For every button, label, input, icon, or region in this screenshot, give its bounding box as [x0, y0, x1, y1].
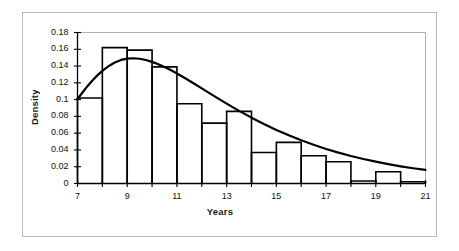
histogram-bars [78, 48, 426, 184]
histogram-chart: 0.180.160.140.120.10.080.060.040.020 791… [0, 0, 459, 251]
histogram-bar [252, 152, 277, 183]
histogram-bar [376, 172, 401, 184]
x-tick-label: 19 [364, 191, 388, 201]
histogram-bar [127, 50, 152, 183]
y-tick-label: 0.14 [35, 60, 69, 70]
x-tick-label: 21 [414, 191, 438, 201]
x-tick-label: 9 [115, 191, 139, 201]
y-tick-label: 0.04 [35, 144, 69, 154]
histogram-bar [177, 104, 202, 184]
histogram-bar [227, 111, 252, 183]
x-tick-label: 13 [215, 191, 239, 201]
y-axis-label: Density [27, 72, 43, 142]
histogram-bar [78, 98, 103, 184]
x-tick-label: 17 [314, 191, 338, 201]
x-tick-label: 7 [66, 191, 90, 201]
y-tick-label: 0 [35, 178, 69, 188]
histogram-bar [276, 142, 301, 183]
histogram-bar [152, 67, 177, 184]
x-axis-label: Years [130, 206, 310, 217]
histogram-bar [202, 123, 227, 183]
y-tick-label: 0.16 [35, 43, 69, 53]
histogram-bar [326, 162, 351, 184]
x-tick-label: 15 [264, 191, 288, 201]
y-tick-label: 0.18 [35, 27, 69, 37]
y-tick-label: 0.02 [35, 161, 69, 171]
x-tick-label: 11 [165, 191, 189, 201]
histogram-bar [301, 156, 326, 184]
